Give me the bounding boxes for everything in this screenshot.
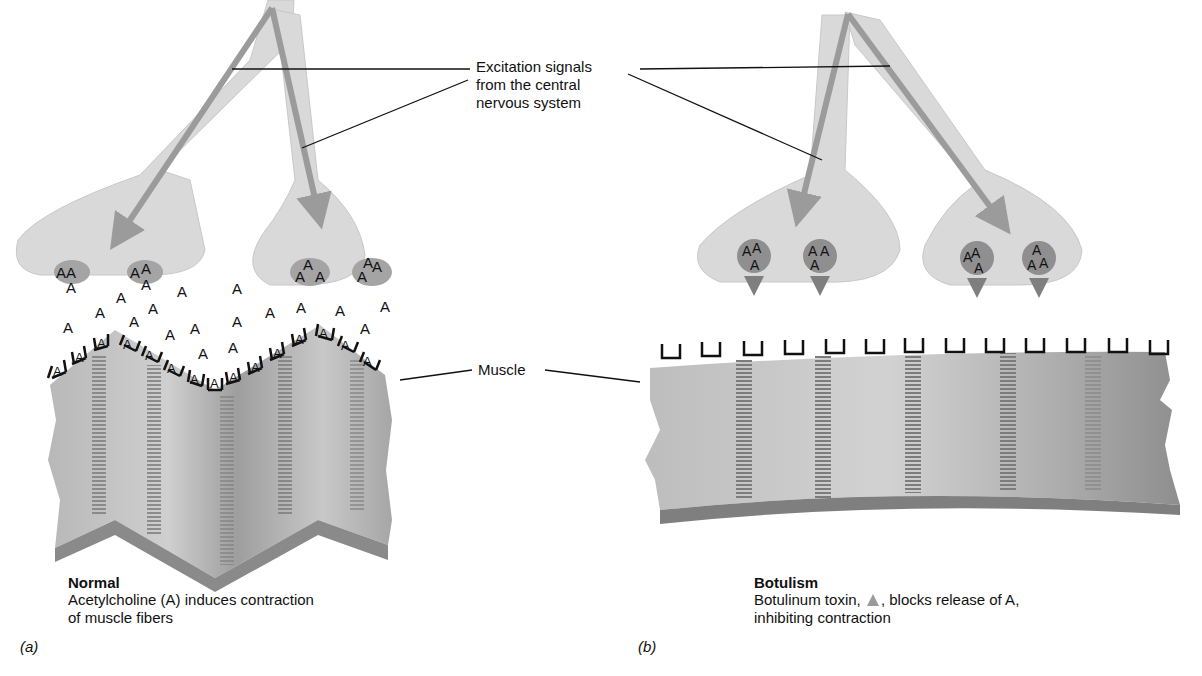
signal-arrow [120, 8, 272, 235]
svg-text:A: A [971, 245, 981, 261]
svg-text:A: A [198, 345, 208, 362]
svg-text:A: A [167, 361, 176, 376]
svg-text:A: A [145, 348, 154, 363]
svg-text:A: A [177, 283, 187, 300]
svg-text:A: A [129, 313, 139, 330]
svg-text:A: A [53, 364, 62, 379]
svg-text:A: A [303, 256, 313, 273]
svg-text:A: A [363, 354, 372, 369]
caption-title: Botulism [754, 574, 1019, 591]
svg-text:A: A [1039, 255, 1049, 271]
svg-text:A: A [315, 268, 325, 285]
svg-text:A: A [372, 258, 382, 275]
caption-normal: Normal Acetylcholine (A) induces contrac… [68, 574, 314, 627]
svg-text:A: A [341, 338, 350, 353]
svg-text:A: A [296, 299, 306, 316]
svg-text:A: A [232, 313, 242, 330]
svg-text:A: A [251, 360, 260, 375]
svg-text:A: A [66, 279, 76, 296]
svg-text:A: A [116, 289, 126, 306]
svg-text:A: A [141, 260, 151, 277]
svg-text:A: A [335, 302, 345, 319]
signal-arrow [848, 14, 1000, 220]
svg-text:A: A [810, 257, 820, 273]
svg-text:A: A [752, 240, 762, 256]
svg-text:A: A [130, 264, 140, 281]
muscle-contracted [48, 325, 392, 592]
svg-text:A: A [820, 243, 830, 259]
svg-text:A: A [190, 372, 199, 387]
svg-text:A: A [190, 320, 200, 337]
svg-text:A: A [123, 337, 132, 352]
svg-text:A: A [75, 350, 84, 365]
svg-text:A: A [229, 370, 238, 385]
panel-tag-b: (b) [638, 638, 656, 655]
svg-text:A: A [56, 264, 66, 281]
caption-line: Acetylcholine (A) induces contraction [68, 591, 314, 609]
nerve-terminals-normal [16, 0, 392, 286]
panel-tag-a: (a) [20, 638, 38, 655]
svg-text:A: A [1027, 257, 1037, 273]
label-line: nervous system [476, 94, 592, 112]
svg-text:A: A [148, 300, 158, 317]
caption-text: , blocks release of A, [881, 591, 1019, 608]
svg-text:A: A [265, 304, 275, 321]
muscle-relaxed [645, 352, 1180, 524]
svg-text:A: A [380, 298, 390, 315]
svg-text:A: A [97, 336, 106, 351]
caption-text: Botulinum toxin, [754, 591, 865, 608]
svg-text:A: A [974, 260, 984, 276]
caption-title: Normal [68, 574, 314, 591]
caption-botulism: Botulism Botulinum toxin, , blocks relea… [754, 574, 1019, 627]
caption-line: inhibiting contraction [754, 609, 1019, 627]
svg-text:A: A [165, 326, 175, 343]
caption-line: of muscle fibers [68, 609, 314, 627]
svg-text:A: A [228, 339, 238, 356]
excitation-signals-label: Excitation signals from the central nerv… [476, 58, 592, 112]
svg-text:A: A [273, 346, 282, 361]
svg-text:A: A [750, 257, 760, 273]
label-line: from the central [476, 76, 592, 94]
toxin-triangle-icon [867, 594, 879, 606]
svg-text:A: A [141, 276, 151, 293]
svg-text:A: A [360, 320, 370, 337]
muscle-label: Muscle [478, 361, 526, 379]
svg-text:A: A [63, 319, 73, 336]
svg-text:A: A [295, 332, 304, 347]
svg-text:A: A [232, 280, 242, 297]
caption-line: Botulinum toxin, , blocks release of A, [754, 591, 1019, 609]
svg-text:A: A [319, 326, 328, 341]
svg-text:A: A [95, 304, 105, 321]
label-line: Excitation signals [476, 58, 592, 76]
svg-text:A: A [210, 376, 219, 391]
